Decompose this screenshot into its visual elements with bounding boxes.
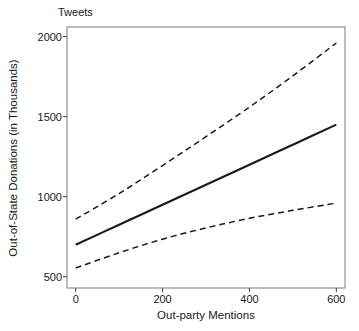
y-tick-label: 1000 <box>26 191 62 203</box>
x-tick-label: 200 <box>153 293 171 305</box>
series-line-confidence-interval-2 <box>76 203 337 268</box>
y-axis-title: Out-of-State Donations (in Thousands) <box>7 59 20 256</box>
series-line-confidence-interval-1 <box>76 43 337 219</box>
x-axis-title: Out-party Mentions <box>157 309 255 322</box>
series-layer <box>76 43 337 268</box>
y-tick-label: 2000 <box>26 31 62 43</box>
chart-figure: Tweets 500100015002000 0200400600 Out-pa… <box>0 0 359 331</box>
x-tick-label: 400 <box>240 293 258 305</box>
y-tick-label: 500 <box>26 271 62 283</box>
x-tick-label: 600 <box>327 293 345 305</box>
series-line-prediction <box>76 125 337 245</box>
x-tick-label: 0 <box>73 293 79 305</box>
y-tick-label: 1500 <box>26 111 62 123</box>
plot-frame <box>67 27 345 288</box>
